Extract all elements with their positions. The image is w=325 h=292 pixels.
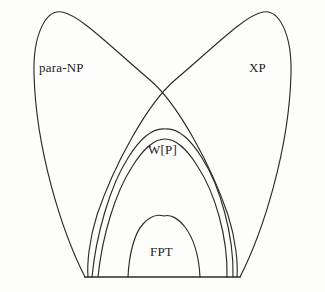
complexity-class-diagram: para-NP XP W[P] FPT	[0, 0, 325, 292]
label-fpt: FPT	[150, 245, 173, 258]
xp-region-outline	[88, 12, 291, 277]
label-xp: XP	[249, 61, 266, 74]
label-wp: W[P]	[148, 143, 177, 156]
label-para-np: para-NP	[39, 61, 84, 74]
